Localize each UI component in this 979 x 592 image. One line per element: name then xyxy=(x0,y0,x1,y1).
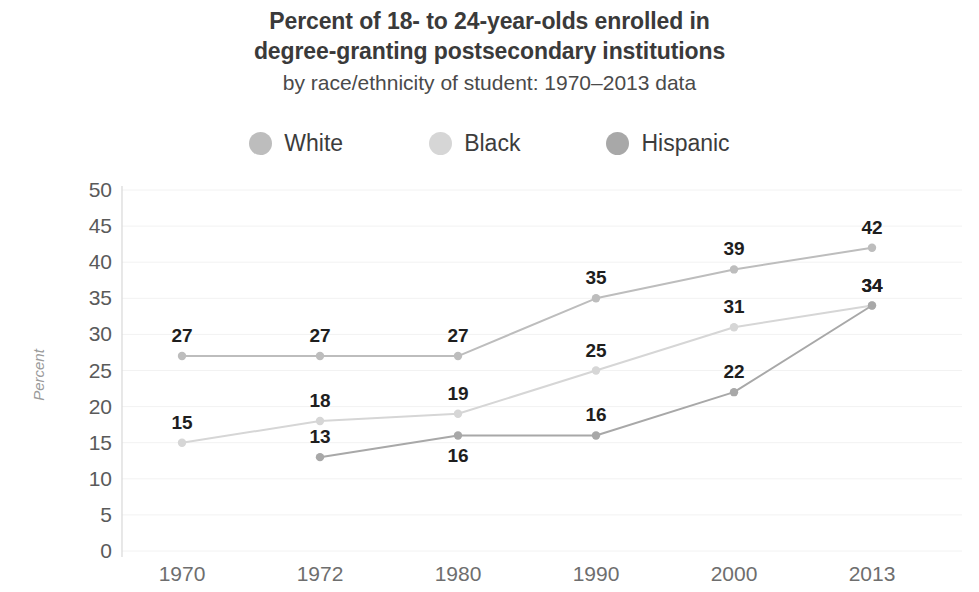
data-point-white-2000[interactable] xyxy=(730,265,738,273)
data-label-white-2013: 42 xyxy=(861,217,882,238)
data-label-white-2000: 39 xyxy=(723,238,744,259)
data-point-hispanic-1990[interactable] xyxy=(592,431,600,439)
data-point-white-2013[interactable] xyxy=(868,244,876,252)
data-label-black-1970: 15 xyxy=(171,412,193,433)
data-point-black-1970[interactable] xyxy=(178,439,186,447)
x-axis-tick-label: 1970 xyxy=(159,562,206,585)
y-axis-tick-label: 15 xyxy=(89,431,112,454)
x-axis-tick-label: 2000 xyxy=(711,562,758,585)
data-point-white-1990[interactable] xyxy=(592,294,600,302)
data-label-black-2000: 31 xyxy=(723,296,745,317)
y-axis-tick-label: 20 xyxy=(89,395,112,418)
y-axis-tick-label: 50 xyxy=(89,178,112,201)
y-axis-tick-label: 10 xyxy=(89,467,112,490)
data-label-white-1990: 35 xyxy=(585,267,607,288)
data-label-white-1970: 27 xyxy=(171,325,192,346)
data-point-black-2000[interactable] xyxy=(730,323,738,331)
y-axis-title: Percent xyxy=(30,348,47,401)
x-axis-tick-label: 2013 xyxy=(849,562,896,585)
data-label-hispanic-2000: 22 xyxy=(723,361,744,382)
x-axis-tick-label: 1990 xyxy=(573,562,620,585)
data-point-white-1980[interactable] xyxy=(454,352,462,360)
data-label-black-1990: 25 xyxy=(585,340,607,361)
line-chart-plot: 05101520253035404550Percent1970197219801… xyxy=(0,0,979,592)
data-label-black-2013: 34 xyxy=(861,275,883,296)
y-axis-tick-label: 0 xyxy=(100,539,112,562)
x-axis-tick-label: 1980 xyxy=(435,562,482,585)
data-label-white-1980: 27 xyxy=(447,325,468,346)
y-axis-tick-label: 30 xyxy=(89,322,112,345)
y-axis-tick-label: 35 xyxy=(89,286,112,309)
data-point-hispanic-2000[interactable] xyxy=(730,388,738,396)
series-line-white xyxy=(182,248,872,356)
data-label-white-1972: 27 xyxy=(309,325,330,346)
x-axis-tick-label: 1972 xyxy=(297,562,344,585)
y-axis-tick-label: 45 xyxy=(89,214,112,237)
data-label-hispanic-1990: 16 xyxy=(585,404,606,425)
data-point-black-1990[interactable] xyxy=(592,366,600,374)
data-label-hispanic-1980: 16 xyxy=(447,445,468,466)
data-point-hispanic-2013[interactable] xyxy=(868,301,876,309)
data-point-black-1972[interactable] xyxy=(316,417,324,425)
data-label-black-1980: 19 xyxy=(447,383,468,404)
y-axis-tick-label: 25 xyxy=(89,359,112,382)
data-point-hispanic-1972[interactable] xyxy=(316,453,324,461)
data-point-white-1970[interactable] xyxy=(178,352,186,360)
data-label-hispanic-1972: 13 xyxy=(309,426,330,447)
y-axis-tick-label: 5 xyxy=(100,503,112,526)
y-axis-tick-label: 40 xyxy=(89,250,112,273)
data-point-hispanic-1980[interactable] xyxy=(454,431,462,439)
chart-container: Percent of 18- to 24-year-olds enrolled … xyxy=(0,0,979,592)
data-point-black-1980[interactable] xyxy=(454,410,462,418)
data-label-black-1972: 18 xyxy=(309,390,330,411)
data-point-white-1972[interactable] xyxy=(316,352,324,360)
